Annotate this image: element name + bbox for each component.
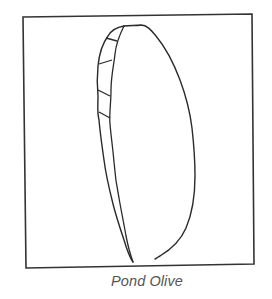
cross-vein-4 [99, 112, 110, 118]
wing-trailing-edge [124, 25, 195, 259]
illustration-figure: Pond Olive [0, 0, 272, 299]
wing-costal-line [110, 26, 133, 262]
wing-leading-edge [97, 26, 133, 262]
cross-vein-3 [98, 90, 110, 96]
cross-vein-2 [99, 60, 112, 64]
wing-illustration [0, 0, 272, 299]
frame-border [23, 14, 254, 268]
figure-caption: Pond Olive [0, 273, 272, 289]
cross-vein-1 [106, 38, 117, 41]
